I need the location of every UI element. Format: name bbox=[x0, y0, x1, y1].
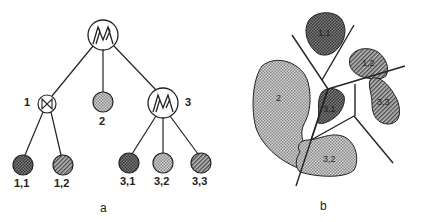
node-label-1: 1 bbox=[24, 96, 30, 108]
node-label-2: 2 bbox=[99, 115, 105, 127]
caption-a: a bbox=[100, 201, 107, 215]
expert-leaf-3-3: 3,3 bbox=[191, 153, 211, 187]
partition-diagram: 1,1 1,2 2 3,1 3,2 3,3 b bbox=[253, 13, 405, 213]
region-label: 3,1 bbox=[323, 104, 336, 114]
leaf-label: 3,3 bbox=[192, 175, 207, 187]
leaf-label: 1,1 bbox=[14, 177, 29, 189]
node-label-3: 3 bbox=[185, 96, 191, 108]
leaf-label: 1,2 bbox=[54, 177, 69, 189]
region-label: 3,2 bbox=[323, 154, 336, 164]
caption-b: b bbox=[320, 199, 327, 213]
expert-leaf-1-1: 1,1 bbox=[13, 155, 33, 189]
leaf-label: 3,2 bbox=[154, 175, 169, 187]
expert-leaf-3-2: 3,2 bbox=[153, 153, 173, 187]
tree-diagram: 1 2 3 1,1 1,2 3,1 3,2 bbox=[13, 20, 211, 215]
expert-leaf-3-1: 3,1 bbox=[119, 153, 139, 187]
expert-node-2: 2 bbox=[93, 92, 113, 127]
hierarchical-mixture-figure: 1 2 3 1,1 1,2 3,1 3,2 bbox=[0, 0, 421, 222]
gating-node-3: 3 bbox=[148, 88, 191, 118]
root-gating-node bbox=[88, 20, 118, 50]
region-label: 1,2 bbox=[362, 58, 375, 68]
region-label: 3,3 bbox=[377, 97, 390, 107]
expert-leaf-1-2: 1,2 bbox=[53, 155, 73, 189]
region-label: 1,1 bbox=[318, 28, 331, 38]
gating-node-1: 1 bbox=[24, 95, 56, 113]
region-label: 2 bbox=[276, 93, 281, 103]
leaf-label: 3,1 bbox=[120, 175, 135, 187]
